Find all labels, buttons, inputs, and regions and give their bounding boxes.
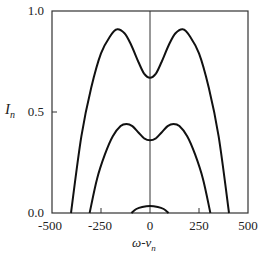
y-tick-label: 0.5: [14, 105, 44, 118]
x-tick-label: -500: [30, 219, 70, 232]
x-axis-label: ω-νn: [132, 236, 156, 253]
x-tick-label: -250: [80, 219, 120, 232]
y-tick-label: 1.0: [14, 4, 44, 17]
x-tick-label: 500: [228, 219, 262, 232]
x-tick-label: 250: [179, 219, 219, 232]
y-axis-label: In: [5, 102, 15, 120]
x-tick-label: 0: [130, 219, 170, 232]
